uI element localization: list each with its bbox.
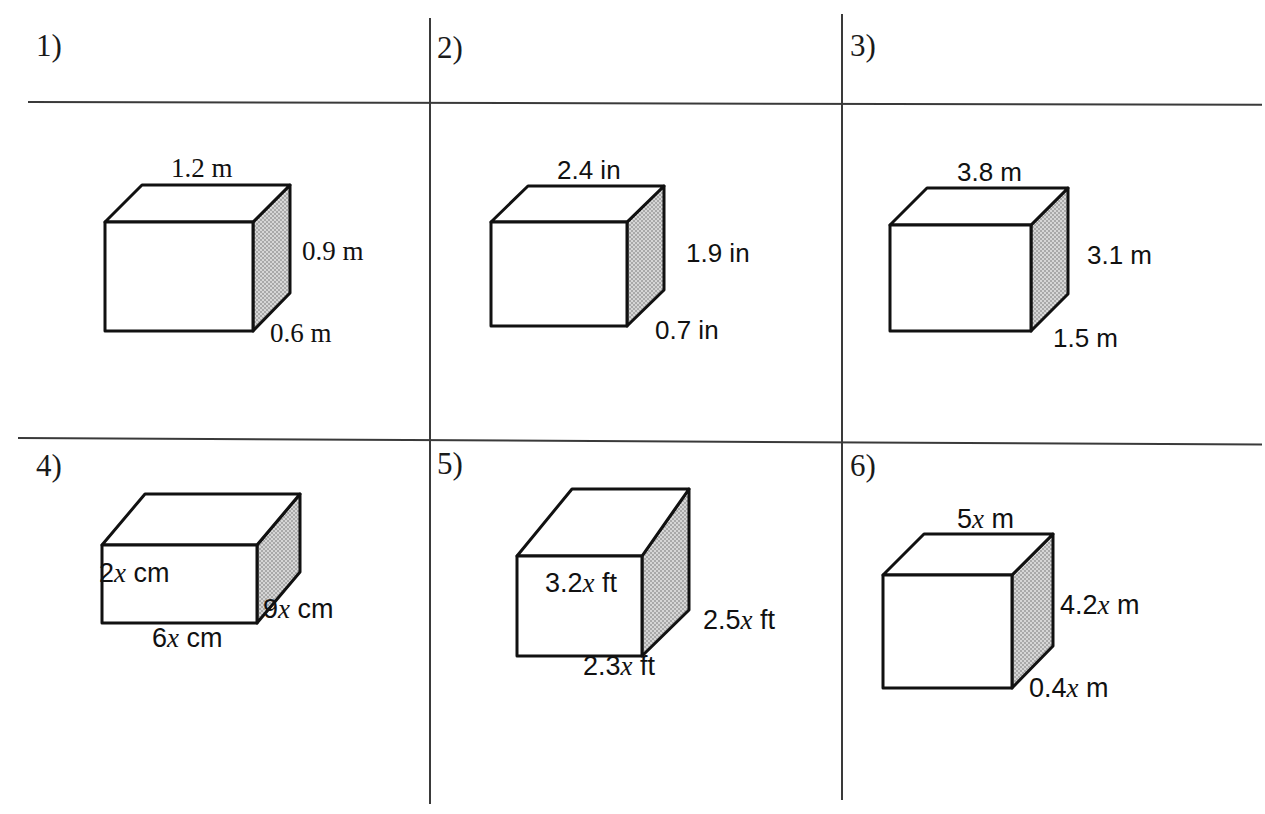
vertical-rule-right [841,14,843,800]
prism-figure-6 [878,524,1068,696]
coef: 2 [99,558,114,588]
unit: m [1110,590,1140,620]
prism-figure-1 [100,175,300,340]
variable-x: x [621,651,633,681]
horizontal-rule-middle [18,437,1262,446]
unit: cm [126,558,170,588]
dimension-label-3-depth: 1.5 m [1053,325,1118,351]
problem-number-6: 6) [850,450,876,481]
variable-x: x [583,568,595,598]
problem-number-2: 2) [437,32,463,63]
dimension-label-3-top: 3.8 m [957,159,1022,185]
coef: 0.4 [1029,673,1067,703]
dimension-label-3-right: 3.1 m [1087,242,1152,268]
coef: 2.5 [703,605,741,635]
unit: cm [179,623,223,653]
dimension-label-2-top: 2.4 in [557,157,621,183]
unit: ft [753,605,776,635]
problem-number-1: 1) [36,30,62,61]
coef: 6 [152,623,167,653]
dimension-label-1-depth: 0.6 m [270,320,332,347]
dimension-label-5-height: 3.2x ft [545,570,617,597]
unit: ft [633,651,656,681]
dimension-label-4-bottom: 6x cm [152,625,223,652]
horizontal-rule-top [28,101,1262,106]
coef: 2.3 [583,651,621,681]
dimension-label-1-top: 1.2 m [171,155,233,182]
variable-x: x [1067,673,1079,703]
variable-x: x [278,594,290,624]
coef: 4.2 [1060,590,1098,620]
prism-figure-3 [886,180,1081,340]
dimension-label-6-depth: 0.4x m [1029,675,1109,702]
problem-number-3: 3) [850,30,876,61]
variable-x: x [167,623,179,653]
dimension-label-2-right: 1.9 in [686,240,750,266]
variable-x: x [114,558,126,588]
coef: 3.2 [545,568,583,598]
worksheet-page: 1) 1.2 m 0.9 m 0.6 m 2) [0,0,1265,814]
unit: m [984,504,1014,534]
dimension-label-1-right: 0.9 m [302,238,364,265]
unit: cm [290,594,334,624]
dimension-label-5-depth: 2.5x ft [703,607,775,634]
unit: m [1079,673,1109,703]
dimension-label-2-depth: 0.7 in [655,317,719,343]
prism-figure-2 [487,178,677,333]
vertical-rule-left [429,18,431,804]
problem-number-5: 5) [437,448,463,479]
dimension-label-4-depth: 9x cm [263,596,334,623]
coef: 9 [263,594,278,624]
problem-number-4: 4) [36,450,62,481]
dimension-label-6-top: 5x m [957,506,1014,533]
unit: ft [595,568,618,598]
variable-x: x [1098,590,1110,620]
coef: 5 [957,504,972,534]
dimension-label-4-height: 2x cm [99,560,170,587]
variable-x: x [972,504,984,534]
variable-x: x [741,605,753,635]
dimension-label-5-bottom: 2.3x ft [583,653,655,680]
dimension-label-6-right: 4.2x m [1060,592,1140,619]
